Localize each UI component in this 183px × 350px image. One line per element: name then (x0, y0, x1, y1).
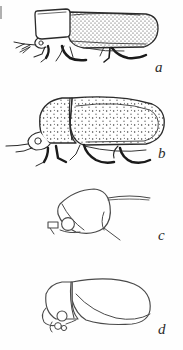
mouthpart-lower-d (61, 325, 66, 330)
mid-tarsus-b (70, 145, 80, 160)
foreleg-b (44, 148, 48, 162)
eye-d (57, 311, 67, 321)
maxillary-palp-b (16, 148, 32, 152)
gena-line-d (66, 320, 76, 324)
fore-tarsus-a (41, 58, 46, 62)
figure-label-b: b (158, 146, 166, 161)
mandible-c (48, 222, 58, 228)
figure-panel-c: c (0, 176, 183, 261)
hind-trochanter-b (114, 146, 119, 158)
figure-label-a: a (155, 60, 163, 75)
antenna-b (6, 144, 28, 146)
pronotum-b (40, 98, 76, 143)
eye-a (39, 41, 43, 45)
beetle-drawing-c (0, 176, 183, 261)
beetle-drawing-d (0, 264, 183, 350)
fore-femur-a (46, 46, 49, 58)
antenna-a (14, 42, 36, 49)
mid-tarsus-a (56, 46, 64, 61)
beetle-drawing-b (0, 88, 183, 173)
midleg-b (84, 145, 114, 163)
fore-femur-b (56, 146, 66, 162)
mid-trochanter-a (70, 47, 73, 57)
figure-panel-b: b (0, 88, 183, 173)
hindleg-a (104, 48, 110, 62)
elytra-a (68, 12, 158, 48)
figure-panel-a: a (0, 0, 183, 88)
antenna-edge-c (108, 199, 149, 200)
fore-tarsus-b (36, 162, 44, 166)
hind-femur-a (112, 48, 146, 58)
figure-label-d: d (158, 322, 166, 337)
eye-c (62, 218, 75, 231)
leg-c (104, 228, 120, 240)
eye-b (35, 138, 41, 144)
mouthpart-upper-d (55, 323, 62, 330)
figure-label-c: c (158, 228, 165, 243)
palp-c (50, 228, 54, 234)
palp-d (50, 322, 52, 332)
antenna-c (108, 196, 150, 198)
ventral-line-b (84, 146, 146, 151)
figure-panel-d: d (0, 264, 183, 350)
illustration-plate: a (0, 0, 183, 350)
